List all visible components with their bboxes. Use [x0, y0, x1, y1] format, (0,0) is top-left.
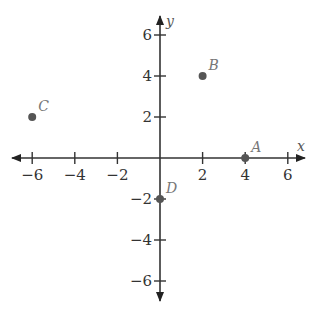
point-a — [241, 154, 249, 162]
point-label-b: B — [208, 57, 219, 73]
point-d — [156, 195, 164, 203]
point-c — [28, 113, 36, 121]
coordinate-plane: −6−4−2246 642−2−4−6 x y ABCD — [0, 0, 320, 309]
plot-svg: −6−4−2246 642−2−4−6 x y ABCD — [0, 0, 320, 309]
x-tick-label: 4 — [240, 166, 250, 184]
x-tick-label: 6 — [283, 166, 293, 184]
y-tick-label: 2 — [142, 108, 152, 126]
x-ticks: −6−4−2246 — [21, 152, 292, 184]
y-tick-label: −6 — [130, 272, 152, 290]
point-label-d: D — [165, 180, 177, 196]
point-b — [199, 72, 207, 80]
x-axis-label: x — [297, 138, 305, 154]
y-tick-label: −4 — [130, 231, 152, 249]
x-tick-label: −6 — [21, 166, 43, 184]
x-tick-label: 2 — [198, 166, 208, 184]
x-tick-label: −2 — [106, 166, 128, 184]
y-tick-label: −2 — [130, 190, 152, 208]
y-tick-label: 4 — [142, 67, 152, 85]
x-tick-label: −4 — [64, 166, 86, 184]
point-label-c: C — [38, 98, 49, 114]
y-axis-label: y — [165, 13, 175, 29]
point-label-a: A — [249, 139, 261, 155]
y-tick-label: 6 — [142, 26, 152, 44]
